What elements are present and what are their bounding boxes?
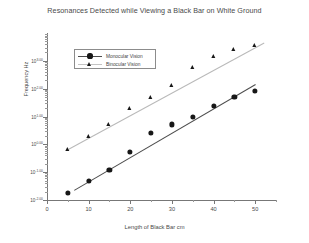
legend-entry-monocular: Monocular Vision: [78, 52, 152, 60]
y-tick-minor: [45, 146, 48, 147]
data-point: [190, 65, 194, 69]
y-tick-minor: [45, 121, 48, 122]
x-tick-major: [47, 200, 48, 204]
x-tick-label: 0: [38, 206, 56, 212]
y-axis-label: Frequency Hz: [23, 29, 29, 129]
y-tick-minor: [45, 159, 48, 160]
y-tick-minor: [45, 108, 48, 109]
chart-figure: Resonances Detected while Viewing a Blac…: [0, 0, 309, 243]
legend-marker-triangle-icon: [78, 60, 102, 68]
data-point: [252, 43, 256, 47]
y-tick-minor: [45, 91, 48, 92]
legend-entry-binocular: Binocular Vision: [78, 60, 152, 68]
y-tick-minor: [45, 36, 48, 37]
y-tick-minor: [45, 128, 48, 129]
legend-label-monocular: Monocular Vision: [106, 54, 143, 59]
x-axis-label: Length of Black Bar cm: [0, 224, 309, 230]
y-tick-minor: [45, 175, 48, 176]
y-tick-label: 10-1.00: [30, 169, 43, 176]
x-tick-major: [172, 200, 173, 204]
data-point: [128, 149, 133, 154]
y-tick-minor: [45, 67, 48, 68]
y-tick-label: 100.00: [31, 141, 43, 148]
y-tick-minor: [45, 118, 48, 119]
x-tick-minor: [234, 200, 235, 202]
y-tick-minor: [45, 64, 48, 65]
y-tick-minor: [45, 44, 48, 45]
y-tick-minor: [45, 65, 48, 66]
y-tick-minor: [45, 192, 48, 193]
y-tick-label: 103.00: [31, 58, 43, 65]
y-tick-minor: [45, 147, 48, 148]
data-point: [253, 88, 258, 93]
y-tick-minor: [45, 103, 48, 104]
y-tick-minor: [45, 52, 48, 53]
data-point: [232, 94, 237, 99]
trend-line-monocular: [74, 85, 256, 192]
data-point: [86, 178, 91, 183]
y-tick-minor: [45, 62, 48, 63]
y-tick-minor: [45, 149, 48, 150]
y-tick-minor: [45, 48, 48, 49]
y-tick-minor: [45, 173, 48, 174]
y-tick-minor: [45, 80, 48, 81]
data-point: [86, 134, 90, 138]
chart-title: Resonances Detected while Viewing a Blac…: [0, 6, 309, 15]
y-tick-minor: [45, 181, 48, 182]
y-tick-minor: [45, 155, 48, 156]
y-tick-minor: [45, 131, 48, 132]
y-tick-minor: [45, 136, 48, 137]
y-tick-label: 102.00: [31, 85, 43, 92]
data-point: [107, 122, 111, 126]
data-point: [211, 54, 215, 58]
y-tick-minor: [45, 178, 48, 179]
y-tick-minor: [45, 183, 48, 184]
x-tick-minor: [276, 200, 277, 202]
data-point: [232, 47, 236, 51]
legend-label-binocular: Binocular Vision: [106, 62, 140, 67]
data-point: [107, 167, 112, 172]
x-tick-label: 20: [121, 206, 139, 212]
y-tick-minor: [45, 119, 48, 120]
x-axis-line: [47, 200, 276, 201]
y-tick-minor: [45, 153, 48, 154]
y-tick-minor: [45, 125, 48, 126]
data-point: [65, 147, 69, 151]
y-tick-minor: [45, 100, 48, 101]
x-tick-label: 10: [80, 206, 98, 212]
data-point: [148, 131, 153, 136]
data-point: [148, 95, 152, 99]
data-point: [128, 106, 132, 110]
data-point: [169, 122, 174, 127]
x-tick-label: 40: [205, 206, 223, 212]
data-point: [169, 83, 173, 87]
x-tick-major: [255, 200, 256, 204]
y-tick-minor: [45, 123, 48, 124]
x-tick-major: [130, 200, 131, 204]
y-tick-label: 10-2.00: [30, 197, 43, 204]
y-tick-minor: [45, 41, 48, 42]
legend-marker-circle-icon: [78, 52, 102, 60]
x-tick-label: 50: [246, 206, 264, 212]
y-tick-minor: [45, 164, 48, 165]
y-tick-minor: [45, 151, 48, 152]
y-tick-minor: [45, 39, 48, 40]
x-tick-minor: [151, 200, 152, 202]
data-point: [65, 190, 70, 195]
x-tick-label: 30: [163, 206, 181, 212]
chart-legend: Monocular Vision Binocular Vision: [74, 49, 156, 69]
x-tick-minor: [109, 200, 110, 202]
y-tick-minor: [45, 34, 48, 35]
y-tick-minor: [45, 37, 48, 38]
y-tick-minor: [45, 93, 48, 94]
y-tick-label: 101.00: [31, 113, 43, 120]
y-tick-minor: [45, 69, 48, 70]
y-tick-minor: [45, 95, 48, 96]
y-tick-minor: [45, 187, 48, 188]
x-tick-major: [214, 200, 215, 204]
y-tick-minor: [45, 72, 48, 73]
x-tick-major: [89, 200, 90, 204]
x-tick-minor: [68, 200, 69, 202]
y-tick-minor: [45, 90, 48, 91]
x-tick-minor: [193, 200, 194, 202]
